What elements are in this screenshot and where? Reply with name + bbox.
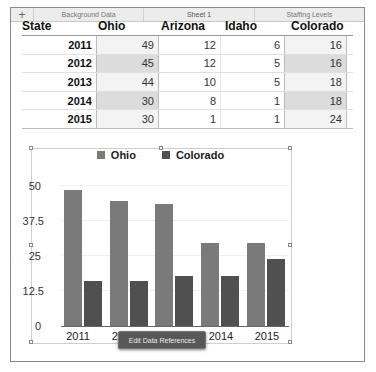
row-header[interactable]: 2014 xyxy=(22,92,96,110)
edit-data-references-label: Edit Data References xyxy=(129,337,196,344)
table-header-row: State Ohio Arizona Idaho Colorado xyxy=(22,17,353,36)
cell-arizona[interactable]: 10 xyxy=(159,73,221,91)
x-tick-label: 2015 xyxy=(247,330,287,342)
x-axis-line xyxy=(61,326,289,327)
cell-idaho[interactable]: 5 xyxy=(221,73,285,91)
row-header[interactable]: 2011 xyxy=(22,36,96,54)
row-header[interactable]: 2012 xyxy=(22,55,96,73)
bar-colorado-2015[interactable] xyxy=(267,259,285,326)
cell-idaho[interactable]: 1 xyxy=(221,110,285,128)
bar-ohio-2012[interactable] xyxy=(110,201,128,326)
gridline xyxy=(61,220,289,221)
cell-ohio[interactable]: 49 xyxy=(96,36,159,54)
table-row: 2013 44 10 5 18 xyxy=(22,73,353,92)
row-header[interactable]: 2015 xyxy=(22,110,96,128)
y-tick-label: 25 xyxy=(19,250,41,262)
bar-ohio-2015[interactable] xyxy=(247,243,265,326)
header-state: State xyxy=(22,19,96,33)
resize-handle-middle-left[interactable] xyxy=(29,243,33,247)
cell-colorado[interactable]: 18 xyxy=(285,73,347,91)
y-tick-label: 37.5 xyxy=(19,215,44,227)
cell-arizona[interactable]: 8 xyxy=(159,92,221,110)
cell-idaho[interactable]: 5 xyxy=(221,55,285,73)
resize-handle-middle-right[interactable] xyxy=(288,243,292,247)
bar-colorado-2011[interactable] xyxy=(84,281,102,326)
resize-handle-bottom-left[interactable] xyxy=(29,340,33,344)
legend-label: Colorado xyxy=(176,149,224,161)
legend-item-colorado[interactable]: Colorado xyxy=(162,149,224,161)
cell-ohio[interactable]: 45 xyxy=(96,55,159,73)
bar-colorado-2013[interactable] xyxy=(175,276,193,326)
header-ohio: Ohio xyxy=(96,19,161,33)
bar-colorado-2012[interactable] xyxy=(130,281,148,326)
y-tick-label: 0 xyxy=(19,320,41,332)
bar-colorado-2014[interactable] xyxy=(221,276,239,326)
cell-colorado[interactable]: 24 xyxy=(285,110,347,128)
cell-idaho[interactable]: 6 xyxy=(221,36,285,54)
legend-swatch-colorado xyxy=(162,151,170,159)
header-arizona: Arizona xyxy=(161,19,223,33)
resize-handle-bottom-right[interactable] xyxy=(288,340,292,344)
legend-label: Ohio xyxy=(111,149,136,161)
data-table[interactable]: State Ohio Arizona Idaho Colorado 2011 4… xyxy=(22,17,353,129)
x-tick-label: 2011 xyxy=(58,330,98,342)
table-row: 2011 49 12 6 16 xyxy=(22,36,353,55)
cell-ohio[interactable]: 30 xyxy=(96,92,159,110)
cell-arizona[interactable]: 1 xyxy=(159,110,221,128)
bar-ohio-2011[interactable] xyxy=(64,190,82,326)
bar-ohio-2013[interactable] xyxy=(155,204,173,326)
cell-colorado[interactable]: 16 xyxy=(285,36,347,54)
legend-item-ohio[interactable]: Ohio xyxy=(97,149,136,161)
y-tick-label: 50 xyxy=(19,180,41,192)
header-colorado: Colorado xyxy=(289,19,353,33)
gridline xyxy=(61,185,289,186)
cell-ohio[interactable]: 30 xyxy=(96,110,159,128)
cell-ohio[interactable]: 44 xyxy=(96,73,159,91)
header-idaho: Idaho xyxy=(223,19,289,33)
cell-arizona[interactable]: 12 xyxy=(159,36,221,54)
cell-colorado[interactable]: 16 xyxy=(285,55,347,73)
edit-data-references-button[interactable]: Edit Data References xyxy=(118,331,206,349)
chart-legend[interactable]: Ohio Colorado xyxy=(31,149,290,161)
cell-idaho[interactable]: 1 xyxy=(221,92,285,110)
bar-chart[interactable]: Ohio Colorado 50 37.5 25 12.5 0 2011 201… xyxy=(19,140,309,350)
bar-ohio-2014[interactable] xyxy=(201,243,219,326)
cell-colorado[interactable]: 18 xyxy=(285,92,347,110)
legend-swatch-ohio xyxy=(97,151,105,159)
x-tick-label: 2014 xyxy=(201,330,241,342)
cell-arizona[interactable]: 12 xyxy=(159,55,221,73)
table-row: 2015 30 1 1 24 xyxy=(22,110,353,129)
table-row: 2014 30 8 1 18 xyxy=(22,92,353,111)
y-tick-label: 12.5 xyxy=(19,285,44,297)
row-header[interactable]: 2013 xyxy=(22,73,96,91)
table-row: 2012 45 12 5 16 xyxy=(22,55,353,74)
